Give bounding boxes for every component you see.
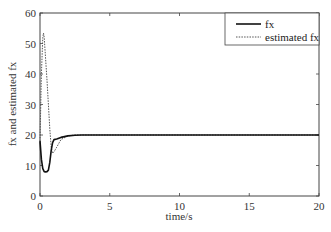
series-fx-line — [40, 135, 319, 172]
y-tick-label: 20 — [25, 129, 37, 141]
x-axis-label: time/s — [166, 210, 193, 222]
legend: fx estimated fx — [225, 13, 320, 45]
x-tick-label: 0 — [37, 200, 43, 212]
x-tick-label: 15 — [244, 200, 256, 212]
y-tick-label: 40 — [25, 68, 37, 80]
legend-label-fx: fx — [265, 18, 275, 30]
line-chart: 0102030405060 05101520 time/s fx and est… — [0, 0, 331, 232]
series-group — [40, 33, 319, 172]
y-tick-label: 0 — [31, 190, 37, 202]
y-tick-label: 10 — [25, 160, 37, 172]
y-tick-label: 50 — [25, 38, 37, 50]
y-axis-label: fx and estimated fx — [6, 61, 18, 146]
legend-label-estimated-fx: estimated fx — [265, 31, 320, 43]
y-tick-label: 30 — [25, 99, 37, 111]
x-tick-label: 5 — [107, 200, 113, 212]
y-tick-label: 60 — [25, 7, 37, 19]
x-tick-label: 20 — [314, 200, 326, 212]
